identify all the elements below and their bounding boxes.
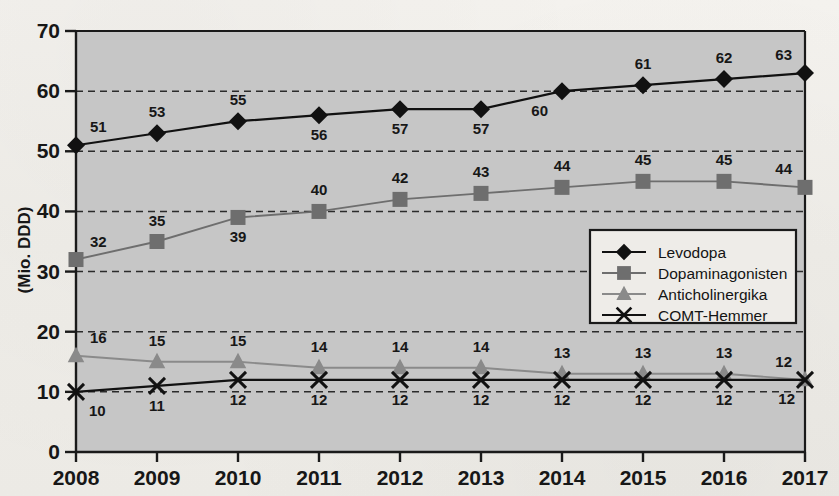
data-label: 13 [716,344,733,361]
square-marker [150,234,165,249]
y-axis-title: (Mio. DDD) [15,207,34,294]
data-label: 12 [716,391,733,408]
square-marker [393,192,408,207]
legend-label: Anticholinergika [658,286,768,303]
data-label: 61 [635,55,652,72]
data-label: 39 [230,228,247,245]
data-label: 15 [230,332,247,349]
data-label: 56 [311,126,328,143]
data-label: 10 [89,402,106,419]
data-label: 32 [90,233,107,250]
data-label: 12 [473,391,490,408]
y-tick-label-40: 40 [37,199,60,222]
data-label: 12 [392,391,409,408]
data-label: 16 [90,329,107,346]
legend-label: Levodopa [658,244,726,261]
data-label: 11 [149,397,165,414]
y-tick-label-10: 10 [37,380,60,403]
x-tick-label-2015: 2015 [620,466,667,489]
data-label: 12 [775,353,792,370]
data-label: 63 [775,46,792,63]
y-tick-label-20: 20 [37,320,60,343]
data-label: 43 [473,163,490,180]
data-label: 62 [716,49,733,66]
data-label: 35 [149,212,166,229]
x-tick-label-2013: 2013 [458,466,505,489]
x-tick-label-2014: 2014 [539,466,586,489]
y-tick-label-60: 60 [37,79,60,102]
data-label: 14 [473,338,490,355]
data-label: 12 [230,391,247,408]
data-label: 12 [778,390,795,407]
data-label: 40 [311,181,328,198]
y-tick-label-0: 0 [48,440,60,463]
square-marker [69,252,84,267]
x-tick-label-2016: 2016 [701,466,748,489]
legend-label: Dopaminagonisten [658,265,787,282]
x-tick-label-2008: 2008 [53,466,100,489]
data-label: 12 [635,391,652,408]
data-label: 12 [554,391,571,408]
data-label: 13 [635,344,652,361]
data-label: 55 [230,91,247,108]
data-label: 44 [554,157,571,174]
data-label: 14 [311,338,328,355]
data-label: 53 [149,103,166,120]
x-tick-label-2017: 2017 [782,466,829,489]
data-label: 45 [716,151,733,168]
square-marker [231,210,246,225]
data-label: 42 [392,169,409,186]
data-label: 14 [392,338,409,355]
data-label: 51 [90,118,107,135]
data-label: 12 [311,391,328,408]
square-marker [717,174,732,189]
data-label: 15 [149,332,166,349]
x-tick-label-2011: 2011 [296,466,342,489]
data-label: 13 [554,344,571,361]
y-tick-label-50: 50 [37,139,60,162]
x-tick-label-2009: 2009 [134,466,181,489]
legend-label: COMT-Hemmer [658,307,767,324]
x-axis-ticks: 2008200920102011201220132014201520162017 [53,452,829,489]
legend-item-dopaminagonisten[interactable]: Dopaminagonisten [602,265,787,282]
square-marker [555,180,570,195]
data-label: 57 [392,120,409,137]
x-tick-label-2012: 2012 [377,466,424,489]
line-chart: 010203040506070 200820092010201120122013… [0,0,839,496]
data-label: 44 [775,160,792,177]
y-tick-label-70: 70 [37,19,60,42]
square-marker [474,186,489,201]
data-label: 45 [635,151,652,168]
square-marker [798,180,813,195]
chart-canvas: 010203040506070 200820092010201120122013… [0,0,839,496]
y-tick-label-30: 30 [37,260,60,283]
data-label: 57 [473,120,490,137]
square-marker [617,266,631,280]
square-marker [312,204,327,219]
chart-legend[interactable]: LevodopaDopaminagonistenAnticholinergika… [590,230,796,324]
data-label: 60 [531,102,548,119]
x-tick-label-2010: 2010 [215,466,262,489]
square-marker [636,174,651,189]
